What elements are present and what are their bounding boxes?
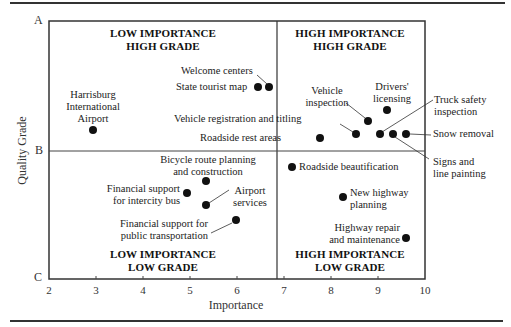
x-tick: 2 [46, 284, 52, 296]
point-vehicle-inspection [364, 117, 372, 125]
label-state-tourist-map: State tourist map [176, 81, 247, 93]
x-tick: 5 [187, 284, 193, 296]
label-vehicle-registration: Vehicle registration and titling [174, 113, 301, 125]
point-new-highway-planning [339, 193, 347, 201]
label-public-transportation: Financial support forpublic transportati… [110, 218, 208, 242]
point-bicycle-route [202, 177, 210, 185]
y-axis-label: Quality Grade [15, 111, 30, 191]
point-intercity-bus [183, 189, 191, 197]
point-signs-line-painting [389, 130, 397, 138]
point-highway-repair [402, 234, 410, 242]
x-axis-label: Importance [196, 298, 276, 313]
label-new-highway-planning: New highwayplanning [350, 187, 409, 211]
label-signs-line-painting: Signs andline painting [433, 156, 486, 180]
point-state-tourist-map [254, 83, 262, 91]
x-tick: 6 [234, 284, 240, 296]
quadrant-high-importance-high-grade: HIGH IMPORTANCEHIGH GRADE [287, 27, 413, 53]
label-truck-safety-inspection: Truck safetyinspection [434, 94, 486, 118]
label-airport-services: Airportservices [230, 185, 270, 209]
label-harrisburg: Harrisburg International Airport [62, 89, 124, 125]
point-airport-services [202, 201, 210, 209]
x-tick: 9 [375, 284, 381, 296]
point-drivers-licensing [383, 106, 391, 114]
grade-a-label: A [34, 13, 43, 28]
point-snow-removal [402, 130, 410, 138]
label-intercity-bus: Financial supportfor intercity bus [104, 183, 180, 207]
label-roadside-beautification: Roadside beautification [299, 161, 398, 173]
quadrant-low-importance-low-grade: LOW IMPORTANCELOW GRADE [100, 248, 226, 274]
x-tick: 10 [420, 284, 431, 296]
quadrant-low-importance-high-grade: LOW IMPORTANCEHIGH GRADE [100, 27, 226, 53]
point-truck-safety [376, 130, 384, 138]
point-public-transportation [232, 216, 240, 224]
label-drivers-licensing: Drivers'licensing [368, 81, 416, 105]
label-welcome-centers: Welcome centers [181, 65, 253, 77]
grade-c-label: C [34, 270, 42, 285]
x-tick: 3 [93, 284, 99, 296]
point-roadside-rest-areas [316, 134, 324, 142]
label-highway-repair: Highway repairand maintenance [322, 222, 400, 246]
quadrant-high-importance-low-grade: HIGH IMPORTANCELOW GRADE [287, 248, 413, 274]
label-roadside-rest-areas: Roadside rest areas [200, 132, 281, 144]
label-bicycle-route: Bicycle route planningand construction [148, 154, 268, 178]
x-tick: 7 [281, 284, 287, 296]
x-tick: 8 [328, 284, 334, 296]
label-vehicle-inspection: Vehicleinspection [300, 85, 354, 109]
label-snow-removal: Snow removal [433, 128, 494, 140]
point-vehicle-registration [352, 130, 360, 138]
point-welcome-centers [265, 83, 273, 91]
point-roadside-beautification [288, 163, 296, 171]
point-harrisburg [89, 126, 97, 134]
x-tick: 4 [140, 284, 146, 296]
grade-b-label: B [35, 143, 43, 158]
